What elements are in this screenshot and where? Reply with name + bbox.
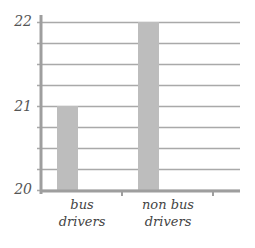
bar-1 [138, 22, 159, 190]
y-tick-label-20: 20 [2, 181, 32, 197]
bar-0 [57, 106, 78, 190]
x-label-line-2: drivers [128, 213, 208, 230]
y-tick-label-22: 22 [2, 13, 32, 29]
bar-chart: 22 21 20 bus drivers non bus drivers [0, 0, 255, 248]
x-category-label-non-bus-drivers: non bus drivers [128, 196, 208, 230]
x-category-label-bus-drivers: bus drivers [42, 196, 122, 230]
x-label-line-2: drivers [42, 213, 122, 230]
y-tick-label-21: 21 [2, 98, 32, 114]
x-label-line-1: non bus [128, 196, 208, 213]
x-label-line-1: bus [42, 196, 122, 213]
